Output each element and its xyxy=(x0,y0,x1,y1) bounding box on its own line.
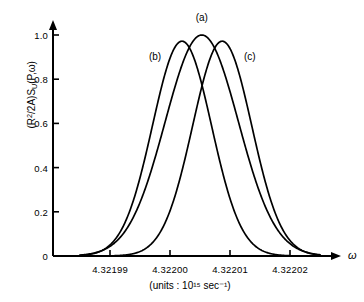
curves-group xyxy=(80,35,320,256)
y-tick-label-1: 0.2 xyxy=(8,206,48,217)
curve-c xyxy=(80,41,320,256)
x-axis-units-label: (units : 10¹⁵ sec⁻¹) xyxy=(149,280,230,291)
x-axis-arrow-icon xyxy=(331,252,341,260)
x-tick-label-3: 4.32202 xyxy=(272,264,308,275)
x-tick-label-1: 4.32200 xyxy=(152,264,188,275)
curve-b xyxy=(80,41,320,256)
figure-container: (R2/2A)SU(P,ω) 00.20.40.60.81.0 4.321994… xyxy=(0,0,364,302)
y-tick-label-2: 0.4 xyxy=(8,162,48,173)
x-tick-label-0: 4.32199 xyxy=(92,264,128,275)
y-tick-label-4: 0.8 xyxy=(8,74,48,85)
y-tick-label-3: 0.6 xyxy=(8,118,48,129)
y-tick-label-0: 0 xyxy=(8,251,48,262)
curve-a xyxy=(80,35,320,255)
x-tick-label-2: 4.32201 xyxy=(212,264,248,275)
axes-group xyxy=(49,20,341,260)
y-tick-label-5: 1.0 xyxy=(8,30,48,41)
curve-label-a: (a) xyxy=(196,12,208,23)
curve-label-c: (c) xyxy=(244,50,256,61)
x-axis-label: ω xyxy=(348,249,357,261)
y-axis-arrow-icon xyxy=(49,20,57,30)
plot-canvas xyxy=(0,0,364,302)
curve-label-b: (b) xyxy=(149,50,161,61)
